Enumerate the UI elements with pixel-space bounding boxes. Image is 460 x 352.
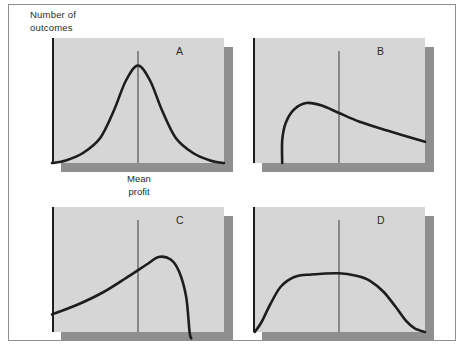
panel-a-label: A xyxy=(176,45,183,57)
panel-b: B xyxy=(253,38,425,163)
panel-d-label: D xyxy=(377,214,385,226)
distribution-curve xyxy=(282,103,425,163)
y-axis-label: Number of outcomes xyxy=(30,8,76,34)
panel-d: D xyxy=(253,207,425,332)
distribution-curve xyxy=(52,257,191,339)
x-axis-label: Mean profit xyxy=(108,172,170,198)
panel-d-chart xyxy=(253,207,425,332)
figure-border: Number of outcomes Mean profit A B xyxy=(8,4,456,341)
panel-c-label: C xyxy=(176,214,184,226)
panel-c: C xyxy=(52,207,224,332)
panel-c-chart xyxy=(52,207,224,332)
panel-b-chart xyxy=(253,38,425,163)
panel-b-label: B xyxy=(377,45,384,57)
distribution-curve xyxy=(255,273,425,332)
panel-a-chart xyxy=(52,38,224,163)
figure-page: Number of outcomes Mean profit A B xyxy=(0,0,460,352)
panel-a: A xyxy=(52,38,224,163)
